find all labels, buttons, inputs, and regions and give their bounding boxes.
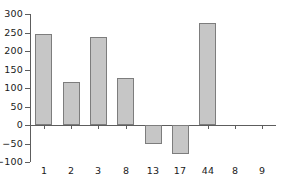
x-tick-mark	[71, 125, 72, 129]
x-tick-label: 2	[56, 166, 86, 176]
bar	[35, 34, 52, 125]
bar	[145, 125, 162, 144]
y-tick-mark	[25, 107, 30, 108]
y-tick-label: 150	[0, 65, 23, 75]
y-tick-label: 200	[0, 46, 23, 56]
x-tick-label: 9	[247, 166, 277, 176]
y-tick-label: 50	[0, 102, 23, 112]
y-axis	[30, 14, 31, 162]
x-tick-mark	[126, 125, 127, 129]
bar	[117, 78, 134, 125]
bar	[172, 125, 189, 154]
x-tick-mark	[235, 125, 236, 129]
x-tick-label: 17	[165, 166, 195, 176]
x-tick-mark	[44, 125, 45, 129]
x-tick-label: 3	[83, 166, 113, 176]
x-tick-label: 13	[138, 166, 168, 176]
bar-chart: 300250200150100500−50−100 123813174489	[0, 0, 282, 184]
y-tick-mark	[25, 70, 30, 71]
y-tick-mark	[25, 144, 30, 145]
x-tick-label: 8	[220, 166, 250, 176]
y-tick-label: −100	[0, 157, 23, 167]
y-tick-mark	[25, 162, 30, 163]
y-tick-mark	[25, 88, 30, 89]
x-tick-label: 8	[111, 166, 141, 176]
y-tick-mark	[25, 33, 30, 34]
bar	[90, 37, 107, 125]
y-tick-label: 250	[0, 28, 23, 38]
x-tick-mark	[208, 125, 209, 129]
y-tick-label: 300	[0, 9, 23, 19]
x-tick-mark	[98, 125, 99, 129]
y-tick-mark	[25, 51, 30, 52]
bar	[63, 82, 80, 125]
y-tick-mark	[25, 14, 30, 15]
y-tick-label: 100	[0, 83, 23, 93]
x-tick-label: 1	[29, 166, 59, 176]
y-tick-mark	[25, 125, 30, 126]
y-tick-label: −50	[0, 139, 23, 149]
x-tick-label: 44	[193, 166, 223, 176]
bar	[199, 23, 216, 125]
x-tick-mark	[262, 125, 263, 129]
y-tick-label: 0	[0, 120, 23, 130]
